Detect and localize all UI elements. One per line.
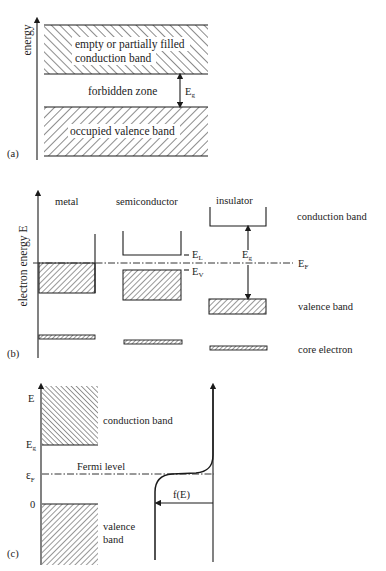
fermi-level-label: EF bbox=[298, 258, 308, 271]
insulator-core-band bbox=[210, 346, 267, 350]
panel-a-tag: (a) bbox=[7, 148, 19, 160]
panel-b: electron energy E metal semiconductor in… bbox=[7, 193, 367, 360]
column-label-semiconductor: semiconductor bbox=[116, 196, 178, 207]
insulator-conduction-band bbox=[210, 207, 266, 226]
tick-label-EF: εF bbox=[26, 469, 35, 484]
metal-filled-band bbox=[39, 263, 95, 293]
electron-energy-axis-label: electron energy E bbox=[17, 226, 30, 307]
row-label-core-electron: core electron bbox=[298, 344, 353, 355]
insulator-gap-label: Eg bbox=[242, 249, 252, 262]
semiconductor-EV-label: EV bbox=[192, 266, 203, 279]
tick-label-Eg: Eg bbox=[26, 439, 36, 452]
panel-c-tag: (c) bbox=[7, 548, 19, 560]
band-diagram-figure: energy empty or partially filled conduct… bbox=[0, 0, 386, 571]
semiconductor-conduction-band bbox=[123, 231, 181, 255]
semiconductor-core-band bbox=[124, 340, 182, 344]
panel-b-tag: (b) bbox=[7, 348, 20, 360]
tick-label-zero: 0 bbox=[30, 499, 35, 510]
conduction-band-label: conduction band bbox=[103, 415, 173, 426]
column-label-metal: metal bbox=[55, 196, 78, 207]
fermi-dirac-curve bbox=[155, 386, 213, 560]
distribution-label: f(E) bbox=[173, 489, 190, 501]
row-label-conduction-band: conduction band bbox=[297, 211, 367, 222]
panel-a: energy empty or partially filled conduct… bbox=[7, 20, 208, 160]
gap-label: Eg bbox=[185, 86, 195, 99]
fermi-level-label: Fermi level bbox=[77, 461, 125, 472]
valence-label-1: valence bbox=[103, 521, 135, 532]
forbidden-zone-label: forbidden zone bbox=[88, 85, 157, 97]
conduction-band-region bbox=[42, 386, 98, 445]
valence-band-region bbox=[42, 504, 98, 565]
conduction-band-label-2: conduction band bbox=[75, 52, 152, 64]
conduction-band-label-1: empty or partially filled bbox=[75, 38, 185, 51]
semiconductor-EL-label: EL bbox=[192, 249, 203, 262]
semiconductor-valence-band bbox=[123, 270, 181, 300]
energy-axis-label: energy bbox=[21, 24, 34, 55]
column-label-insulator: insulator bbox=[216, 195, 253, 206]
valence-label-2: band bbox=[103, 534, 124, 545]
insulator-valence-band bbox=[209, 299, 266, 314]
valence-band-label: occupied valence band bbox=[70, 125, 175, 138]
tick-label-E: E bbox=[28, 393, 34, 404]
metal-core-band bbox=[39, 335, 95, 339]
panel-c: E Eg εF 0 conduction band Fermi level va… bbox=[7, 386, 214, 565]
row-label-valence-band: valence band bbox=[298, 301, 354, 312]
